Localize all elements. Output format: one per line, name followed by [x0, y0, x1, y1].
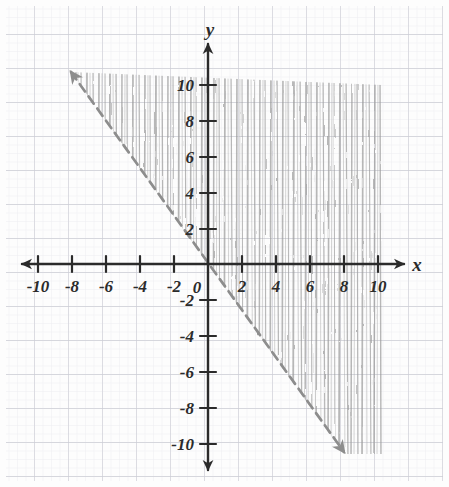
y-tick-label: -8 — [180, 399, 195, 418]
y-tick-label: -6 — [180, 363, 195, 382]
x-tick-label: -4 — [133, 277, 147, 296]
graph-svg: -10 -8 -6 -4 -2 0 2 4 6 8 10 10 8 6 4 2 … — [0, 0, 449, 487]
x-tick-label: -10 — [27, 277, 50, 296]
origin-label: 0 — [193, 278, 202, 297]
y-tick-label: 10 — [177, 76, 195, 95]
x-tick-label: 10 — [370, 277, 388, 296]
x-tick-label: 6 — [306, 277, 315, 296]
graph-canvas: -10 -8 -6 -4 -2 0 2 4 6 8 10 10 8 6 4 2 … — [0, 0, 449, 487]
x-tick-label: -8 — [65, 277, 80, 296]
x-tick-label: 4 — [271, 277, 281, 296]
x-tick-label: 8 — [340, 277, 349, 296]
x-axis-label: x — [411, 254, 422, 275]
y-tick-label: -4 — [180, 327, 194, 346]
x-tick-label: -6 — [99, 277, 114, 296]
x-tick-label: 2 — [237, 277, 247, 296]
y-tick-label: 4 — [185, 184, 195, 203]
y-axis-label: y — [204, 19, 215, 40]
y-tick-label: 2 — [185, 220, 195, 239]
y-tick-label: -10 — [171, 435, 194, 454]
y-tick-label: 6 — [186, 148, 195, 167]
y-tick-label: -2 — [180, 291, 195, 310]
y-tick-label: 8 — [186, 112, 195, 131]
